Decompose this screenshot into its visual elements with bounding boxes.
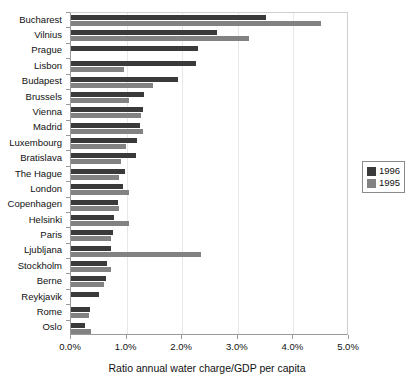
bar-group [71,213,347,228]
bar-1995 [71,313,89,318]
y-axis-label: Oslo [42,322,62,332]
bar-1996 [71,61,196,66]
bar-1996 [71,92,144,97]
bar-1996 [71,200,118,205]
bar-group [71,167,347,182]
plot-area [70,12,348,335]
y-axis-tick [66,181,70,182]
legend-item-1996: 1996 [367,165,400,177]
y-axis-tick [66,135,70,136]
x-axis-label: 1.0% [104,341,148,352]
y-axis-label: Helsinki [29,215,62,225]
bar-1996 [71,246,111,251]
bar-1995 [71,221,129,226]
bar-group [71,13,347,28]
bar-1996 [71,46,198,51]
bar-rows [71,13,347,334]
bar-1995 [71,83,153,88]
bar-group [71,228,347,243]
legend-label-1995: 1995 [379,178,400,188]
chart-legend: 1996 1995 [362,161,405,193]
bar-1996 [71,292,99,297]
bar-chart: BucharestVilniusPragueLisbonBudapestBrus… [0,0,414,382]
y-axis-tick [66,227,70,228]
bar-1996 [71,230,113,235]
x-axis-label: 5.0% [326,341,370,352]
y-axis-label: Copenhagen [8,199,62,209]
y-axis-labels: BucharestVilniusPragueLisbonBudapestBrus… [0,12,66,335]
y-axis-label: Madrid [33,122,62,132]
bar-group [71,290,347,305]
y-axis-tick [66,273,70,274]
bar-1996 [71,261,107,266]
y-axis-label: Paris [40,230,62,240]
y-axis-tick [66,58,70,59]
bar-group [71,44,347,59]
bar-1996 [71,15,266,20]
bar-1995 [71,190,129,195]
y-axis-tick [66,197,70,198]
bar-group [71,90,347,105]
y-axis-tick [66,43,70,44]
y-axis-label: Bratislava [20,153,62,163]
bar-1995 [71,36,249,41]
bar-1996 [71,30,217,35]
y-axis-tick [66,120,70,121]
y-axis-tick [66,166,70,167]
bar-1996 [71,323,85,328]
x-axis-label: 4.0% [270,341,314,352]
x-axis-tick [237,335,238,339]
y-axis-tick [66,12,70,13]
y-axis-label: Budapest [22,76,62,86]
bar-1995 [71,175,119,180]
bar-1995 [71,67,124,72]
x-axis-tick [292,335,293,339]
bar-group [71,259,347,274]
bar-group [71,105,347,120]
y-axis-label: Stockholm [18,261,62,271]
y-axis-tick [66,27,70,28]
y-axis-label: Rome [37,307,62,317]
y-axis-label: Brussels [26,92,62,102]
y-axis-label: Berne [37,276,62,286]
bar-1995 [71,144,126,149]
bar-group [71,59,347,74]
x-axis-title: Ratio annual water charge/GDP per capita [0,362,414,374]
legend-label-1996: 1996 [379,166,400,176]
x-axis-tick [70,335,71,339]
bar-group [71,28,347,43]
bar-group [71,305,347,320]
bar-1996 [71,107,143,112]
x-axis-label: 3.0% [215,341,259,352]
legend-swatch-1995 [367,179,376,188]
bar-1996 [71,77,178,82]
y-axis-label: Prague [31,45,62,55]
bar-group [71,182,347,197]
bar-group [71,321,347,336]
y-axis-label: Reykjavik [21,292,62,302]
bar-group [71,244,347,259]
bar-1995 [71,98,129,103]
y-axis-label: Luxembourg [9,138,62,148]
bar-group [71,274,347,289]
x-axis-tick [348,335,349,339]
bar-1996 [71,184,123,189]
bar-group [71,75,347,90]
bar-1996 [71,307,90,312]
y-axis-label: Vienna [33,107,62,117]
x-axis-tick [126,335,127,339]
bar-1995 [71,329,91,334]
y-axis-tick [66,89,70,90]
bar-1996 [71,276,106,281]
y-axis-tick [66,243,70,244]
y-axis-tick [66,320,70,321]
bar-1995 [71,159,121,164]
bar-1996 [71,138,137,143]
y-axis-tick [66,104,70,105]
x-axis-label: 2.0% [159,341,203,352]
y-axis-label: Lisbon [34,61,62,71]
bar-1995 [71,206,119,211]
y-axis-label: London [30,184,62,194]
y-axis-tick [66,212,70,213]
x-axis-tick [181,335,182,339]
